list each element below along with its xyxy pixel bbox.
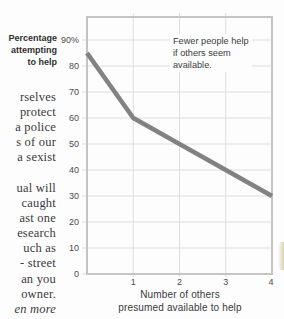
- annotation-line: if others seem: [173, 48, 231, 58]
- y-tick-label: 70: [69, 87, 79, 97]
- y-tick-label: 10: [69, 243, 79, 253]
- annotation-line: Fewer people help: [173, 36, 249, 46]
- x-axis-title-line: presumed available to help: [118, 302, 242, 313]
- page-edge-artifact: [278, 242, 284, 270]
- y-tick-label: 50: [69, 139, 79, 149]
- x-tick-labels: 1 2 3 4: [131, 277, 274, 287]
- y-tick-label: 0: [74, 269, 79, 279]
- x-axis-title-line: Number of others: [140, 289, 220, 300]
- x-tick-label: 4: [268, 277, 273, 287]
- y-tick-label: 80: [69, 61, 79, 71]
- x-tick-label: 1: [131, 277, 136, 287]
- y-tick-label: 30: [69, 191, 79, 201]
- y-tick-labels: 90% 80 70 60 50 40 30 20 10 0: [61, 35, 79, 279]
- x-tick-label: 3: [223, 277, 228, 287]
- textbook-page-region: rselves protect a police s of our a sexi…: [0, 0, 284, 319]
- y-tick-label: 40: [69, 165, 79, 175]
- x-axis-title: Number of others presumed available to h…: [118, 289, 242, 313]
- x-tick-label: 2: [177, 277, 182, 287]
- annotation-line: available.: [173, 60, 212, 70]
- y-tick-label: 60: [69, 113, 79, 123]
- y-tick-label: 90%: [61, 35, 79, 45]
- helping-line-chart: Fewer people help if others seem availab…: [0, 0, 284, 319]
- y-tick-label: 20: [69, 217, 79, 227]
